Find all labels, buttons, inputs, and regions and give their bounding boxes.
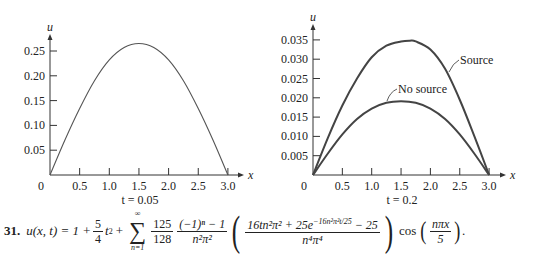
y-tick-label: 0.15 — [24, 94, 45, 108]
x-axis-label: x — [247, 168, 254, 182]
fraction-sign: (−1)ⁿ − 1 n²π² — [177, 217, 227, 246]
y-tick-label: 0.10 — [24, 118, 45, 132]
fraction-exponential: 16tn²π² + 25e−16n²π²t/25 − 25 n⁴π⁴ — [245, 215, 380, 247]
problem-number: 31. — [4, 223, 20, 239]
x-tick-label: 1.5 — [394, 179, 409, 193]
x-tick-label: 0.5 — [335, 179, 350, 193]
chart-right-t02: xu00.51.01.52.02.53.00.0050.0100.0150.02… — [270, 0, 533, 205]
y-tick-label: 0.05 — [24, 143, 45, 157]
x-tick-label: 2.0 — [161, 179, 176, 193]
y-tick-label: 0.20 — [24, 69, 45, 83]
annotation-source-leader — [449, 60, 459, 72]
series-line-u-x-0-05- — [50, 44, 228, 175]
fraction-cos-arg: nπx 5 — [430, 217, 451, 246]
annotation-source: Source — [460, 53, 493, 67]
y-axis-label: u — [47, 20, 53, 34]
x-tick-label: 3.0 — [220, 179, 235, 193]
fraction-5-4: 5 4 — [93, 217, 103, 246]
annotation-no-source-leader — [387, 89, 397, 101]
y-tick-label: 0.030 — [281, 52, 308, 66]
y-axis-arrow-icon — [48, 34, 53, 40]
y-tick-label: 0.035 — [281, 33, 308, 47]
equation-lhs: u(x, t) = 1 + — [26, 223, 91, 239]
x-tick-label: 1.5 — [131, 179, 146, 193]
x-tick-label: 2.5 — [191, 179, 206, 193]
x-tick-label: 3.0 — [482, 179, 497, 193]
x-axis-arrow-icon — [238, 173, 244, 178]
y-axis-arrow-icon — [311, 24, 316, 30]
chart-left-t005: xu00.51.01.52.02.53.00.050.100.150.200.2… — [0, 0, 270, 205]
equation-31: 31. u(x, t) = 1 + 5 4 t2 + ∞ ∑ n=1 125 1… — [4, 206, 533, 256]
x-tick-label: 1.0 — [364, 179, 379, 193]
chart-caption: t = 0.05 — [121, 193, 158, 205]
x-tick-label: 0 — [301, 179, 307, 193]
chart-caption: t = 0.2 — [386, 193, 417, 205]
y-tick-label: 0.015 — [281, 110, 308, 124]
x-axis-arrow-icon — [500, 173, 506, 178]
x-tick-label: 2.0 — [423, 179, 438, 193]
y-tick-label: 0.020 — [281, 91, 308, 105]
x-tick-label: 2.5 — [452, 179, 467, 193]
y-tick-label: 0.005 — [281, 149, 308, 163]
y-tick-label: 0.010 — [281, 129, 308, 143]
x-tick-label: 0.5 — [72, 179, 87, 193]
x-tick-label: 0 — [38, 179, 44, 193]
y-tick-label: 0.25 — [24, 44, 45, 58]
y-axis-label: u — [310, 10, 316, 24]
x-axis-label: x — [509, 168, 516, 182]
summation: ∞ ∑ n=1 — [129, 209, 146, 253]
x-tick-label: 1.0 — [102, 179, 117, 193]
annotation-no-source: No source — [398, 82, 447, 96]
fraction-125-128: 125 128 — [151, 217, 173, 246]
y-tick-label: 0.025 — [281, 72, 308, 86]
